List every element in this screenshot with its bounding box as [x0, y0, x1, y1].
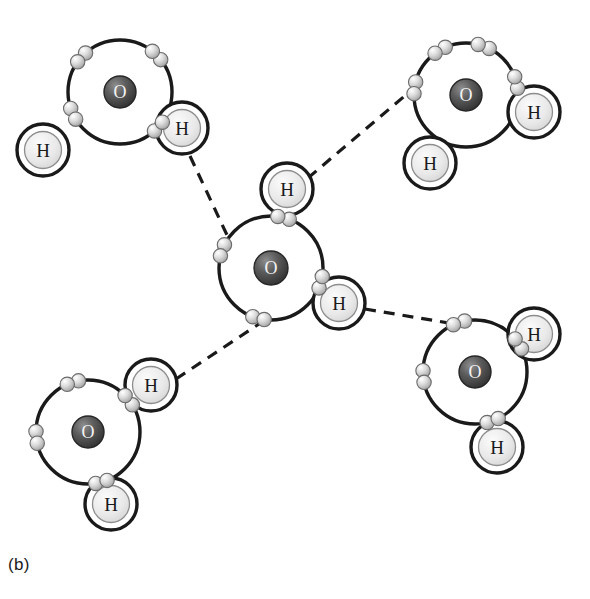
molecule-bottom-left-bonding-pair-1-electron-1: [100, 473, 114, 487]
molecule-center-lone-pair-2-electron-1: [213, 249, 227, 263]
molecule-bottom-right-lone-pair-2-electron-1: [446, 317, 460, 331]
molecule-center-lone-pair-3-electron-1: [257, 312, 271, 326]
molecule-top-right-bonding-pair-0-electron-1: [428, 46, 442, 60]
molecule-center-bonding-pair-1-electron-1: [315, 269, 329, 283]
h-center-right-label: H: [332, 293, 346, 314]
molecule-top-left-lone-pair-2-electron-1: [68, 112, 82, 126]
h-top-right-lower: H: [404, 137, 456, 189]
water-hydrogen-bonding-diagram: HHOHHOHHOHHOHHO: [0, 0, 590, 599]
h-bottom-right-lower-label: H: [490, 437, 504, 458]
molecule-center-bonding-pair-0-electron-1: [271, 209, 285, 223]
molecules-layer: HHOHHOHHOHHOHHO: [17, 37, 560, 530]
h-top-right-right-label: H: [527, 102, 541, 123]
h-center-top-label: H: [280, 179, 294, 200]
molecule-top-left-lone-pair-3-electron-1: [155, 115, 169, 129]
molecule-top-left-bonding-pair-0-electron-1: [70, 55, 84, 69]
molecule-top-right-bonding-pair-1-electron-1: [508, 70, 522, 84]
molecule-bottom-right: HHO: [416, 308, 560, 473]
molecule-bottom-right-bonding-pair-1-electron-1: [491, 411, 505, 425]
h-top-left-lower-label: H: [36, 140, 50, 161]
molecule-center: HHO: [213, 163, 365, 329]
h-bottom-left-upper-label: H: [144, 375, 158, 396]
h-top-left-lower: H: [17, 124, 69, 176]
molecular-diagram-canvas: HHOHHOHHOHHOHHO (b): [0, 0, 590, 599]
molecule-bottom-right-bonding-pair-0-electron-1: [508, 332, 522, 346]
h-top-left-right-label: H: [175, 118, 189, 139]
h-bottom-right-upper-label: H: [527, 324, 541, 345]
molecule-top-right-lone-pair-2-electron-1: [471, 37, 485, 51]
h-bottom-right-lower: H: [471, 421, 523, 473]
h-top-right-lower-label: H: [423, 153, 437, 174]
molecule-center-oxygen-label: O: [265, 258, 278, 278]
molecule-bottom-right-lone-pair-3-electron-1: [417, 375, 431, 389]
hbond-topleft-to-center: [190, 156, 234, 250]
h-bottom-left-lower-label: H: [104, 494, 118, 515]
molecule-top-left-bonding-pair-1-electron-1: [145, 44, 159, 58]
molecule-top-left: HHO: [17, 40, 208, 176]
molecule-top-left-oxygen-label: O: [114, 82, 127, 102]
molecule-top-right-lone-pair-3-electron-1: [407, 86, 421, 100]
molecule-bottom-left-lone-pair-3-electron-1: [30, 436, 44, 450]
molecule-bottom-left: HHO: [29, 359, 177, 530]
molecule-bottom-left-lone-pair-2-electron-1: [60, 377, 74, 391]
molecule-bottom-left-oxygen-label: O: [82, 422, 95, 442]
hbond-center-to-topright: [308, 88, 414, 178]
molecule-bottom-right-oxygen-label: O: [469, 362, 482, 382]
hbond-center-to-bottomright: [365, 309, 455, 324]
hydrogen-bonds-layer: [176, 88, 455, 379]
molecule-top-right-oxygen-label: O: [460, 85, 473, 105]
molecule-top-right: HHO: [404, 37, 560, 189]
h-center-top: H: [261, 163, 313, 215]
hbond-bottomleft-to-center: [176, 322, 262, 379]
figure-label: (b): [8, 555, 30, 575]
molecule-bottom-left-bonding-pair-0-electron-1: [118, 388, 132, 402]
